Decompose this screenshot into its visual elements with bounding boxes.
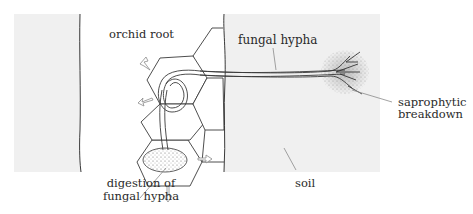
orchid-mycorrhiza-diagram: orchid root fungal hypha saprophytic bre… [0,0,473,214]
label-fungal-hypha: fungal hypha [238,34,317,47]
label-soil: soil [295,177,315,190]
arrow-left [138,98,153,106]
left-tissue-fill [14,14,81,172]
arrow-up-left [140,57,150,70]
digestion-blob [143,148,187,172]
label-fungal-hypha-digestion: fungal hypha [96,190,186,203]
label-breakdown: breakdown [398,108,463,121]
label-orchid-root: orchid root [109,28,174,41]
